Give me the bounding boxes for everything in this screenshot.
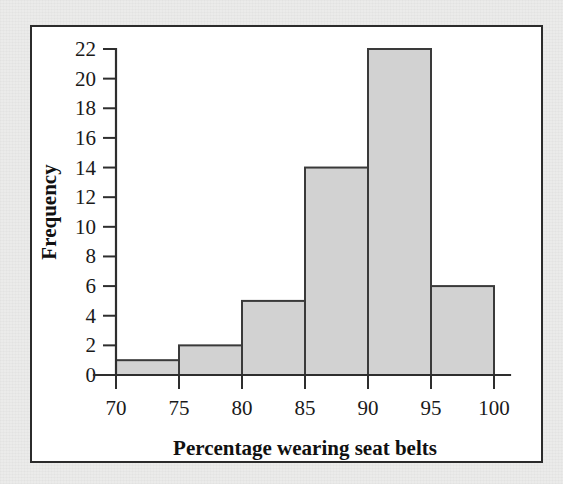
y-tick-label: 4: [86, 304, 97, 328]
y-tick-label: 22: [75, 37, 96, 61]
histogram-svg: 0246810121416182022 707580859095100 Perc…: [32, 27, 541, 461]
y-tick-label: 10: [75, 215, 96, 239]
histogram-bar: [179, 345, 242, 375]
histogram-bars: [116, 49, 494, 375]
histogram-bar: [116, 360, 179, 375]
x-tick-label: 80: [232, 396, 253, 420]
x-tick-label: 75: [169, 396, 190, 420]
histogram-bar: [368, 49, 431, 375]
x-axis-tick-labels: 707580859095100: [106, 396, 510, 420]
y-tick-label: 8: [86, 244, 97, 268]
y-axis-tick-labels: 0246810121416182022: [75, 37, 97, 387]
y-tick-label: 16: [75, 126, 96, 150]
histogram-chart: 0246810121416182022 707580859095100 Perc…: [32, 27, 541, 461]
x-tick-label: 90: [358, 396, 379, 420]
x-axis-tick-marks: [116, 375, 494, 389]
x-tick-label: 100: [478, 396, 510, 420]
histogram-bar: [305, 168, 368, 375]
x-tick-label: 95: [421, 396, 442, 420]
y-tick-label: 2: [86, 333, 97, 357]
y-tick-label: 6: [86, 274, 97, 298]
y-axis-title: Frequency: [37, 164, 61, 260]
y-tick-label: 14: [75, 156, 97, 180]
figure-frame: 0246810121416182022 707580859095100 Perc…: [30, 25, 543, 463]
y-tick-label: 12: [75, 185, 96, 209]
histogram-bar: [242, 301, 305, 375]
y-tick-label: 20: [75, 67, 96, 91]
y-tick-label: 18: [75, 96, 96, 120]
histogram-bar: [431, 286, 494, 375]
x-axis-title: Percentage wearing seat belts: [173, 436, 437, 460]
y-axis-tick-marks: [103, 49, 116, 375]
x-tick-label: 70: [106, 396, 127, 420]
x-tick-label: 85: [295, 396, 316, 420]
